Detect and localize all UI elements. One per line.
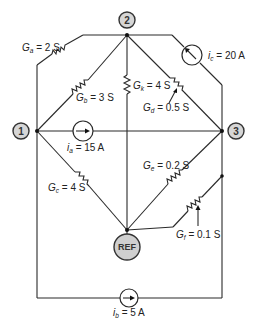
junction-gf-rail [220, 174, 224, 178]
junction-ref [125, 228, 129, 232]
junction-node1 [35, 129, 39, 133]
label-Ge: Ge = 0.2 S [143, 160, 189, 172]
node-label-3: 3 [228, 123, 244, 139]
label-Ga: Ga = 2 S [22, 42, 60, 54]
label-Gd: Gd = 0.5 S [143, 102, 189, 114]
junction-node3 [220, 129, 224, 133]
resistor-Gf [127, 176, 222, 230]
label-Gb: Gb = 3 S [76, 92, 114, 104]
svg-text:3: 3 [233, 126, 239, 137]
label-Gc: Gc = 4 S [48, 182, 86, 194]
svg-text:1: 1 [18, 126, 24, 137]
label-ib: ib = 5 A [113, 307, 145, 318]
junction-node2 [125, 33, 129, 37]
circuit-diagram: Ga = 2 S Gb = 3 S Gk = 4 S Gd = 0.5 S [0, 0, 259, 318]
label-Gk: Gk = 4 S [133, 80, 171, 92]
current-source-ia [37, 121, 222, 141]
node-label-ref: REF [114, 234, 140, 260]
resistor-Ge [127, 131, 222, 230]
node-label-2: 2 [119, 12, 135, 28]
current-source-ib [120, 289, 138, 307]
resistor-Gk [124, 35, 130, 241]
svg-text:REF: REF [118, 242, 137, 252]
current-source-ic [182, 45, 202, 65]
svg-text:2: 2 [124, 15, 130, 26]
label-ic: ic = 20 A [208, 50, 245, 62]
label-ia: ia = 15 A [67, 142, 105, 154]
label-Gf: Gf = 0.1 S [176, 229, 221, 241]
node-label-1: 1 [13, 123, 29, 139]
